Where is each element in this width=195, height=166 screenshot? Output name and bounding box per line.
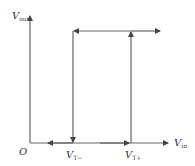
y-axis-label-subscript: out [19,15,29,22]
y-axis-label: Vout [12,11,29,22]
x-axis-label: Vin [174,138,187,149]
hysteresis-diagram: Vout O VT− VT+ Vin [0,0,195,166]
threshold-low-subscript: T− [73,154,82,161]
origin-label-text: O [19,146,27,157]
threshold-low-label: VT− [66,150,82,161]
x-axis-label-subscript: in [181,142,187,149]
origin-label: O [19,147,27,157]
threshold-high-label: VT+ [125,150,141,161]
threshold-high-subscript: T+ [132,154,141,161]
diagram-graphic [0,0,195,166]
